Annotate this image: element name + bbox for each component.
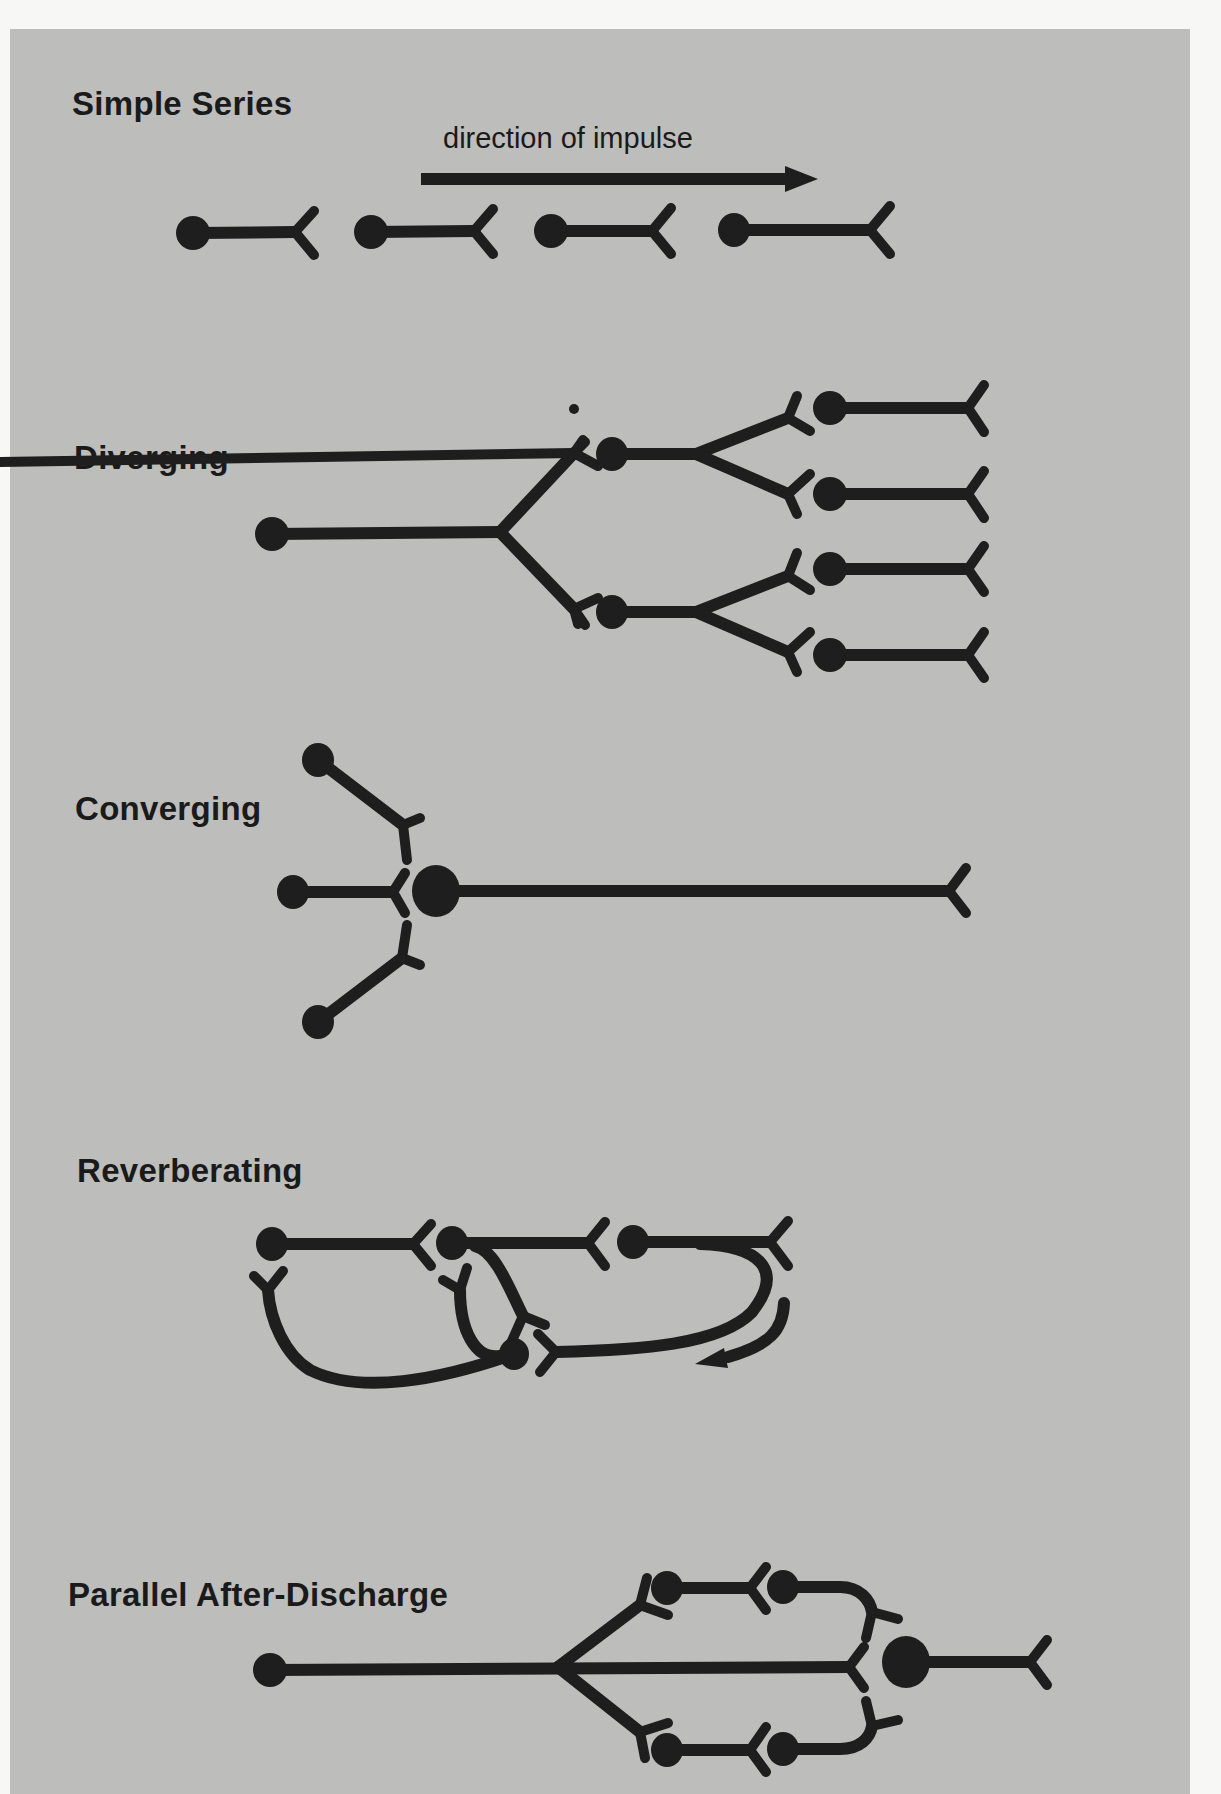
neuron (596, 553, 810, 672)
diverging-circuit (0, 385, 984, 678)
neuron-circuits-diagram (0, 0, 1221, 1794)
neuron (596, 396, 810, 514)
neuron (412, 865, 966, 917)
converging-circuit (277, 743, 966, 1039)
neuron (767, 1570, 898, 1638)
neuron (767, 1701, 898, 1766)
neuron (354, 209, 493, 254)
neuron (256, 1224, 431, 1266)
neuron (254, 1268, 529, 1383)
neuron (277, 873, 405, 913)
neuron (813, 471, 984, 518)
neuron (302, 925, 420, 1039)
neuron (253, 1578, 864, 1758)
reverberating-circuit (254, 1221, 788, 1383)
neuron (651, 1567, 766, 1610)
neuron (651, 1727, 766, 1772)
neuron (302, 743, 420, 860)
neuron (813, 546, 984, 592)
neuron (882, 1636, 1047, 1688)
simple-series-circuit (176, 166, 890, 255)
direction-arrow-icon (421, 166, 818, 192)
parallel-after-discharge-circuit (253, 1567, 1047, 1772)
neuron (813, 385, 984, 432)
neuron (0, 409, 598, 625)
neuron (718, 206, 890, 254)
neuron (176, 211, 314, 255)
neuron (813, 632, 984, 678)
neuron (534, 208, 671, 254)
